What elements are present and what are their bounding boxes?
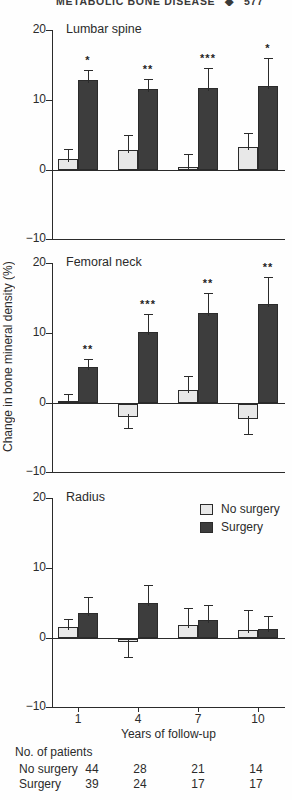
error-bar-stem	[268, 58, 269, 89]
error-bar-stem	[208, 605, 209, 623]
surgery-swatch-icon	[200, 522, 213, 533]
y-axis-line	[52, 498, 53, 708]
zero-line	[52, 638, 285, 639]
y-tick-label: 20	[2, 255, 46, 269]
error-bar-stem	[148, 314, 149, 335]
error-bar-stem	[248, 133, 249, 150]
bar-surgery-year-4	[138, 89, 158, 170]
cell: 21	[182, 762, 214, 776]
cell: 24	[124, 777, 156, 791]
error-bar-stem	[248, 416, 249, 434]
x-tick-label-4: 4	[126, 712, 150, 726]
y-tick-label: 20	[2, 22, 46, 36]
x-tick-label-10: 10	[246, 712, 270, 726]
baseline	[52, 239, 285, 240]
cell: 14	[240, 762, 272, 776]
no-surgery-swatch-icon	[200, 504, 213, 515]
panel-title: Radius	[66, 490, 105, 504]
error-bar-cap	[244, 133, 253, 134]
cell: 28	[124, 762, 156, 776]
error-bar-stem	[88, 597, 89, 616]
error-bar-cap	[124, 657, 133, 658]
bar-surgery-year-4	[138, 332, 158, 403]
error-bar-cap	[64, 394, 73, 395]
significance-surgery-year-1: *	[73, 54, 103, 66]
error-bar-cap	[84, 359, 93, 360]
y-tick	[46, 498, 52, 499]
y-tick-label: 0	[2, 162, 46, 176]
bar-surgery-year-7	[198, 313, 218, 403]
bar-no-surgery-year-4	[118, 150, 138, 170]
row-label: No surgery	[19, 762, 78, 776]
error-bar-stem	[68, 149, 69, 162]
error-bar-stem	[248, 610, 249, 633]
error-bar-stem	[68, 394, 69, 404]
y-tick	[46, 263, 52, 264]
bar-surgery-year-1	[78, 80, 98, 170]
error-bar-stem	[208, 293, 209, 316]
y-tick	[46, 100, 52, 101]
significance-surgery-year-10: **	[253, 261, 283, 273]
diamond-icon: ◆	[225, 0, 234, 6]
page: METABOLIC BONE DISEASE◆577 Change in bon…	[0, 0, 292, 800]
error-bar-stem	[88, 359, 89, 370]
error-bar-cap	[124, 428, 133, 429]
zero-line	[52, 170, 285, 171]
legend: No surgery Surgery	[200, 502, 280, 538]
significance-surgery-year-1: **	[73, 343, 103, 355]
y-tick	[46, 30, 52, 31]
bar-surgery-year-10	[258, 86, 278, 170]
bar-surgery-year-7	[198, 88, 218, 170]
error-bar-cap	[204, 605, 213, 606]
error-bar-cap	[184, 376, 193, 377]
panel-lumbar-spine: 20100−10******* Lumbar spine	[0, 30, 292, 240]
error-bar-stem	[188, 376, 189, 393]
error-bar-cap	[244, 610, 253, 611]
baseline	[52, 707, 285, 708]
legend-item-surgery: Surgery	[200, 520, 280, 534]
error-bar-cap	[244, 434, 253, 435]
error-bar-stem	[188, 608, 189, 628]
bar-no-surgery-year-10	[238, 147, 258, 170]
error-bar-stem	[128, 639, 129, 657]
legend-label: No surgery	[221, 502, 280, 516]
significance-surgery-year-7: **	[193, 277, 223, 289]
y-tick-label: 10	[2, 325, 46, 339]
error-bar-cap	[64, 149, 73, 150]
error-bar-cap	[144, 79, 153, 80]
error-bar-stem	[268, 616, 269, 632]
y-tick-label: −10	[2, 464, 46, 478]
x-tick-label-1: 1	[66, 712, 90, 726]
cell: 44	[76, 762, 108, 776]
error-bar-cap	[124, 135, 133, 136]
error-bar-stem	[88, 70, 89, 83]
row-label: Surgery	[19, 777, 61, 791]
panel-radius: 20100−10 Radius No surgery Surgery	[0, 498, 292, 708]
y-tick-label: −10	[2, 699, 46, 713]
y-axis-line	[52, 30, 53, 240]
error-bar-stem	[268, 277, 269, 307]
panel-femoral-neck: 20100−10********* Femoral neck	[0, 263, 292, 473]
error-bar-cap	[264, 277, 273, 278]
patients-table-title: No. of patients	[15, 745, 92, 759]
error-bar-stem	[188, 154, 189, 170]
error-bar-stem	[128, 135, 129, 153]
baseline	[52, 472, 285, 473]
y-tick-label: 0	[2, 630, 46, 644]
significance-surgery-year-4: ***	[133, 298, 163, 310]
y-axis-line	[52, 263, 53, 473]
panel-title: Femoral neck	[66, 255, 142, 269]
bar-surgery-year-1	[78, 367, 98, 403]
y-tick-label: 20	[2, 490, 46, 504]
bar-surgery-year-4	[138, 603, 158, 638]
running-head-title: METABOLIC BONE DISEASE	[56, 0, 215, 6]
significance-surgery-year-10: *	[253, 42, 283, 54]
cell: 17	[182, 777, 214, 791]
error-bar-cap	[144, 314, 153, 315]
page-number: 577	[244, 0, 264, 6]
error-bar-stem	[148, 79, 149, 92]
legend-label: Surgery	[221, 520, 263, 534]
significance-surgery-year-7: ***	[193, 52, 223, 64]
plot-area-lumbar-spine: 20100−10*******	[52, 30, 285, 240]
x-axis-title: Years of follow-up	[52, 727, 285, 741]
